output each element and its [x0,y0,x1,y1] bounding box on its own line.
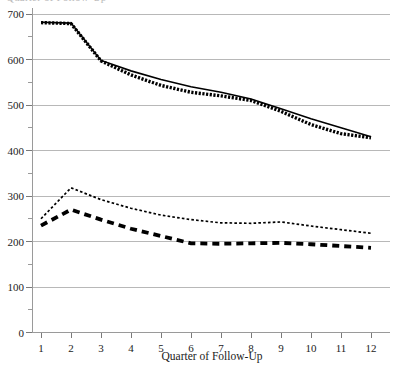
y-tick-label: 100 [8,281,25,293]
x-tick-label: 9 [278,342,284,354]
y-tick-label: 200 [8,236,25,248]
x-axis-title: Quarter of Follow-Up [162,350,263,363]
y-tick-label: 600 [8,54,25,66]
line-chart: 0100200300400500600700123456789101112 Qu… [0,0,395,367]
x-tick-label: 11 [336,342,347,354]
series-upper-solid [41,22,371,137]
y-tick-label: 400 [8,145,25,157]
x-tick-label: 10 [306,342,318,354]
axis-ticks [26,14,371,338]
x-tick-label: 2 [68,342,74,354]
x-tick-label: 3 [98,342,104,354]
x-tick-label: 12 [366,342,377,354]
y-tick-label: 300 [8,190,25,202]
data-series [41,22,371,248]
y-tick-label: 700 [8,8,25,20]
series-lower-dotted [41,188,371,234]
series-upper-dotted [41,23,371,138]
x-tick-label: 4 [128,342,134,354]
y-tick-label: 0 [19,327,25,339]
x-tick-label: 1 [38,342,44,354]
y-tick-label: 500 [8,99,25,111]
chart-container: Quarter of Follow-Up 0100200300400500600… [0,0,395,367]
axis-lines [32,8,390,332]
series-lower-dashed [41,210,371,248]
